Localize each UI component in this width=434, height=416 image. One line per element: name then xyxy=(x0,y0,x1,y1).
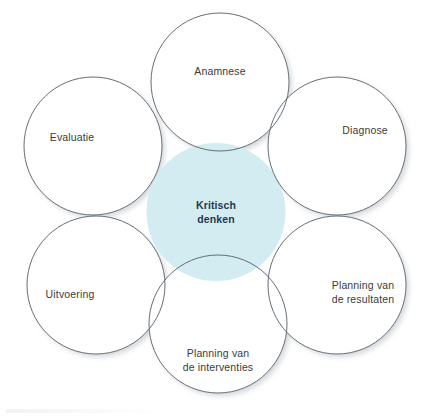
diagnose-circle-fill xyxy=(268,77,406,215)
kritisch-denken-overlap-region xyxy=(146,143,285,281)
uitvoering-circle-fill xyxy=(27,216,165,354)
anamnese-circle-fill xyxy=(151,13,289,151)
planning-resultaten-circle-fill xyxy=(268,216,406,354)
nursing-process-venn-diagram: Anamnese Diagnose Planning van de result… xyxy=(0,0,434,416)
evaluatie-circle-fill xyxy=(24,77,162,215)
venn-diagram-canvas xyxy=(0,0,434,416)
